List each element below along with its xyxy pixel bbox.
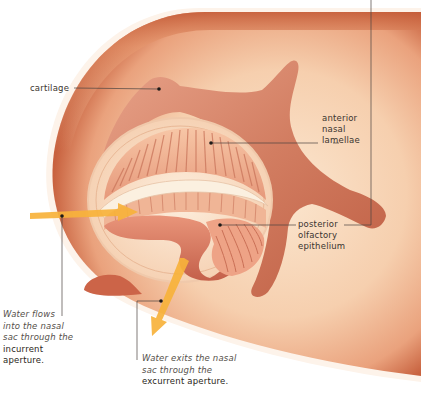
label-cartilage: cartilage [30,83,69,94]
label-line: nasal [322,124,360,135]
label-line: posterior [298,219,345,230]
caption-line: Water flows [3,309,73,321]
label-posterior-olfactory-epithelium: posterior olfactory epithelium [298,219,345,252]
caption-term: excurrent aperture. [142,376,236,388]
caption-line: sac through the [3,332,73,344]
caption-term: aperture. [3,355,73,367]
label-anterior-nasal-lamellae: anterior nasal lamellae [322,113,360,146]
caption-excurrent: Water exits the nasal sac through the ex… [142,353,236,388]
caption-line: Water exits the nasal [142,353,236,365]
label-line: anterior [322,113,360,124]
label-line: lamellae [322,135,360,146]
caption-line: into the nasal [3,321,73,333]
caption-line: sac through the [142,365,236,377]
caption-term: incurrent [3,344,73,356]
caption-incurrent: Water flows into the nasal sac through t… [3,309,73,367]
label-line: olfactory [298,230,345,241]
label-line: epithelium [298,241,345,252]
